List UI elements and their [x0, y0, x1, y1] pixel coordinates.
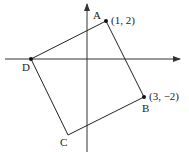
coordinate-diagram [0, 0, 189, 152]
vertex-c-label: C [60, 137, 67, 148]
vertex-b-label: B [142, 103, 149, 114]
vertex-d-label: D [22, 62, 30, 73]
vertex-a-dot [104, 19, 108, 23]
vertex-a-label: A [93, 10, 101, 21]
vertex-b-coordinate: (3, −2) [149, 91, 179, 102]
vertex-a-coordinate: (1, 2) [111, 15, 135, 26]
vertex-b-dot [142, 95, 146, 99]
